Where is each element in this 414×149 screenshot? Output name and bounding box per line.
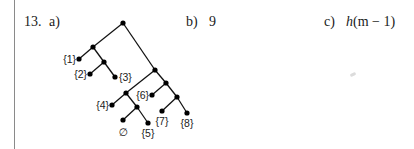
tree-leaf-label: {3} — [119, 71, 132, 83]
tree-internal-node — [101, 59, 106, 64]
tree-leaf-label: {4} — [96, 99, 109, 111]
tree-edge — [112, 93, 126, 105]
tree-internal-node — [123, 90, 128, 95]
tree-leaf-label: {8} — [181, 117, 194, 129]
tree-edge — [123, 23, 155, 70]
tree-edge — [90, 62, 104, 74]
tree-leaf-node — [76, 56, 81, 61]
tree-internal-node — [134, 104, 139, 109]
tree-leaf-node — [145, 120, 150, 125]
tree-edge — [104, 62, 115, 77]
tree-leaf-node — [184, 110, 189, 115]
tree-edge — [93, 47, 104, 62]
tree-edge — [123, 107, 137, 120]
tree-internal-node — [152, 67, 157, 72]
tree-internal-node — [163, 80, 168, 85]
tree-edge — [177, 97, 187, 113]
tree-leaf-label: {1} — [63, 53, 76, 65]
tree-internal-node — [90, 44, 95, 49]
tree-leaf-node — [120, 117, 125, 122]
tree-edge — [152, 83, 166, 95]
tree-edge — [93, 23, 123, 47]
tree-leaf-node — [159, 108, 164, 113]
tree-leaf-node — [112, 74, 117, 79]
tree-internal-node — [120, 20, 125, 25]
tree-leaf-node — [109, 102, 114, 107]
tree-edge — [166, 83, 177, 97]
tree-leaf-label: ∅ — [118, 126, 127, 138]
tree-edge — [137, 107, 148, 123]
tree-leaf-label: {5} — [142, 127, 155, 139]
tree-leaf-node — [87, 71, 92, 76]
tree-leaf-label: {7} — [156, 115, 169, 127]
tree-edge — [79, 47, 93, 59]
tree-leaf-label: {6} — [136, 89, 149, 101]
tree-edge — [162, 97, 177, 111]
tree-leaf-node — [149, 92, 154, 97]
tree-internal-node — [174, 94, 179, 99]
tree-leaf-label: {2} — [74, 68, 87, 80]
